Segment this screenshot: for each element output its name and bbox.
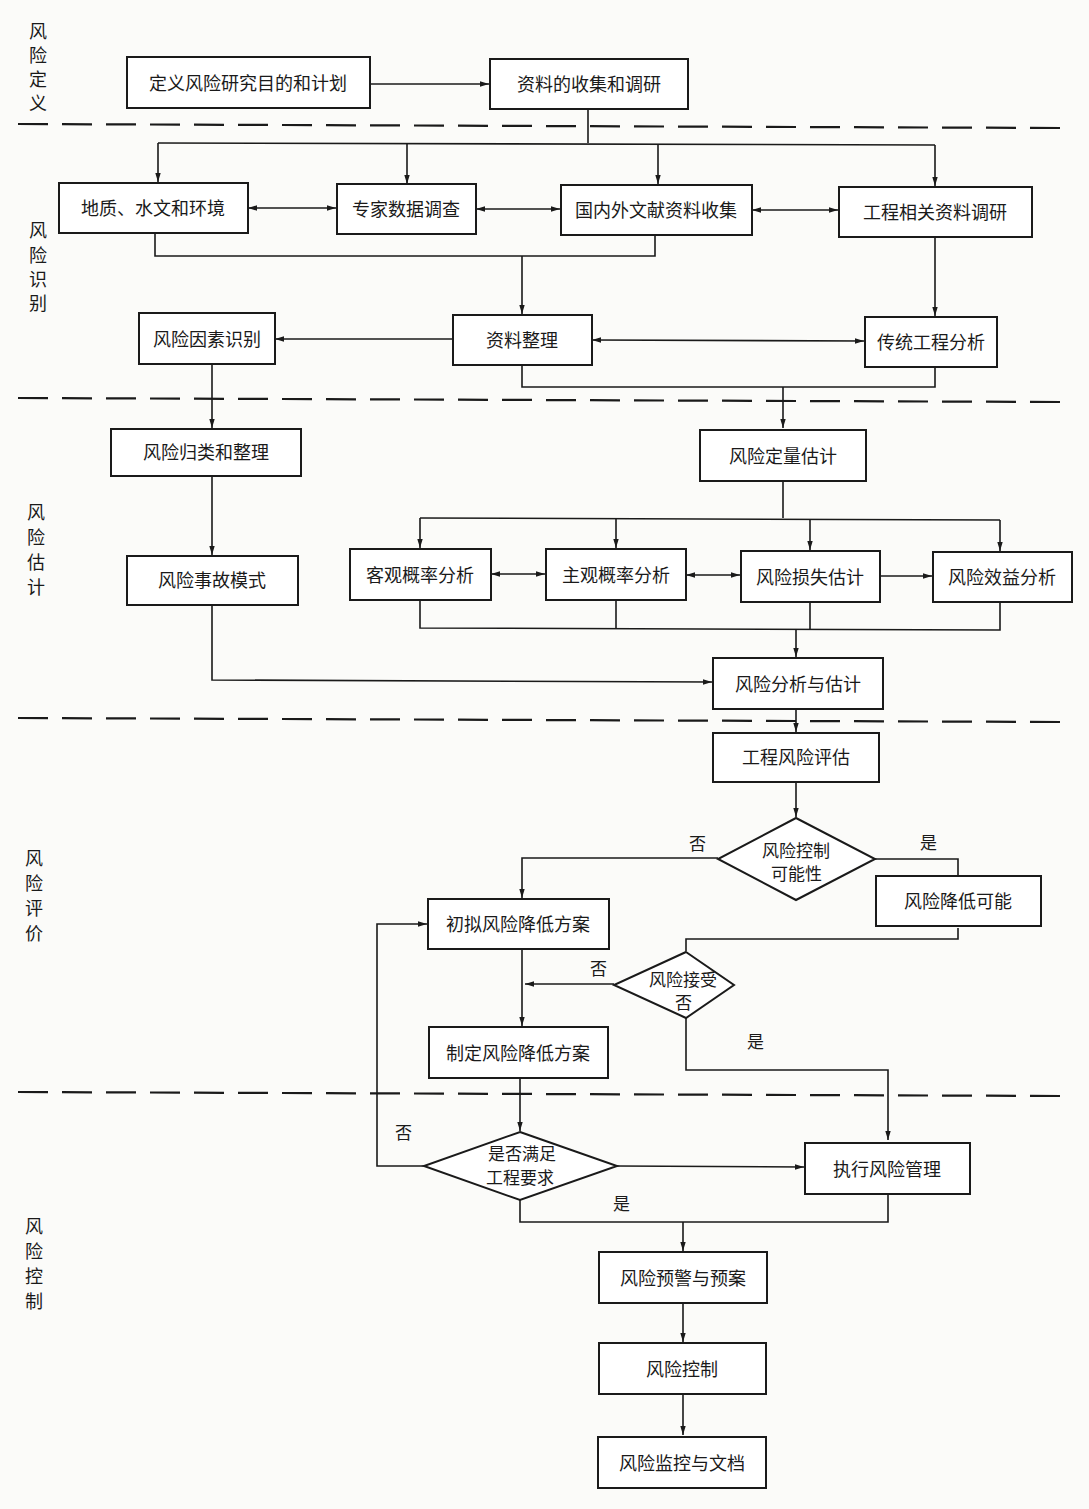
svg-text:制: 制 [25, 1291, 43, 1312]
svg-text:传统工程分析: 传统工程分析 [877, 332, 985, 353]
node-objective-prob: 客观概率分析 [350, 549, 491, 600]
node-classify: 风险归类和整理 [111, 429, 301, 476]
node-quant-estimate: 风险定量估计 [700, 430, 866, 481]
svg-text:风: 风 [25, 848, 43, 869]
node-literature: 国内外文献资料收集 [561, 185, 752, 235]
node-traditional-analysis: 传统工程分析 [865, 317, 997, 367]
svg-text:可能性: 可能性 [771, 864, 822, 884]
svg-text:估: 估 [27, 552, 45, 573]
node-warning: 风险预警与预案 [599, 1252, 767, 1303]
svg-text:风险预警与预案: 风险预警与预案 [620, 1268, 746, 1289]
node-analysis-estimate: 风险分析与估计 [713, 658, 883, 709]
node-control: 风险控制 [599, 1343, 766, 1394]
svg-text:工程相关资料调研: 工程相关资料调研 [863, 202, 1007, 223]
svg-text:风险因素识别: 风险因素识别 [153, 329, 261, 350]
svg-text:别: 别 [29, 293, 47, 314]
svg-text:风险降低可能: 风险降低可能 [904, 891, 1012, 912]
decision-control-possible: 风险控制 可能性 [718, 818, 875, 900]
svg-text:控: 控 [25, 1266, 43, 1287]
svg-text:风险定量估计: 风险定量估计 [729, 446, 837, 467]
svg-text:风险归类和整理: 风险归类和整理 [143, 442, 269, 463]
svg-text:风险事故模式: 风险事故模式 [158, 570, 266, 591]
node-monitor: 风险监控与文档 [598, 1437, 766, 1488]
svg-text:执行风险管理: 执行风险管理 [833, 1159, 941, 1180]
svg-text:险: 险 [29, 245, 47, 266]
edge-label-accept-no: 否 [590, 959, 607, 979]
node-draft-plan: 初拟风险降低方案 [428, 899, 609, 949]
node-project-eval: 工程风险评估 [713, 733, 879, 782]
svg-text:国内外文献资料收集: 国内外文献资料收集 [575, 200, 737, 221]
node-project-data: 工程相关资料调研 [839, 187, 1032, 237]
svg-text:初拟风险降低方案: 初拟风险降低方案 [446, 914, 590, 935]
node-geo-env: 地质、水文和环境 [59, 183, 248, 233]
svg-text:资料整理: 资料整理 [486, 330, 558, 351]
node-factor-identify: 风险因素识别 [139, 313, 275, 364]
stage-label-estimate: 风 险 估 计 [27, 502, 45, 598]
svg-text:险: 险 [25, 1241, 43, 1262]
node-subjective-prob: 主观概率分析 [546, 549, 686, 600]
svg-text:专家数据调查: 专家数据调查 [352, 199, 460, 220]
stage-label-evaluate: 风 险 评 价 [25, 848, 43, 944]
svg-text:否: 否 [675, 993, 692, 1013]
stage-label-identify: 风 险 识 别 [29, 220, 47, 314]
svg-text:义: 义 [29, 93, 47, 114]
svg-text:客观概率分析: 客观概率分析 [366, 565, 474, 586]
svg-text:险: 险 [29, 45, 47, 66]
svg-text:风险监控与文档: 风险监控与文档 [619, 1453, 745, 1474]
svg-text:险: 险 [25, 873, 43, 894]
svg-text:价: 价 [25, 923, 43, 944]
edge-label-accept-yes: 是 [747, 1032, 764, 1052]
node-benefit-analysis: 风险效益分析 [933, 552, 1072, 602]
svg-text:地质、水文和环境: 地质、水文和环境 [81, 198, 225, 219]
svg-text:资料的收集和调研: 资料的收集和调研 [517, 74, 661, 95]
svg-text:风险接受: 风险接受 [649, 970, 717, 990]
stage-dividers [18, 124, 1060, 1096]
svg-text:定义风险研究目的和计划: 定义风险研究目的和计划 [149, 73, 347, 94]
stage-label-control: 风 险 控 制 [25, 1216, 43, 1312]
svg-text:工程要求: 工程要求 [486, 1168, 554, 1188]
node-accident-mode: 风险事故模式 [127, 556, 298, 605]
svg-text:工程风险评估: 工程风险评估 [742, 747, 850, 768]
svg-text:风险损失估计: 风险损失估计 [756, 567, 864, 588]
svg-text:制定风险降低方案: 制定风险降低方案 [446, 1043, 590, 1064]
svg-text:计: 计 [27, 577, 45, 598]
decision-meet-requirement: 是否满足 工程要求 [424, 1132, 617, 1200]
node-data-organize: 资料整理 [453, 315, 592, 365]
node-exec-mgmt: 执行风险管理 [805, 1143, 970, 1194]
svg-text:风险分析与估计: 风险分析与估计 [735, 674, 861, 695]
node-data-collect: 资料的收集和调研 [490, 59, 688, 109]
decision-accept: 风险接受 否 [614, 952, 734, 1018]
svg-text:识: 识 [29, 269, 47, 290]
svg-text:风: 风 [27, 502, 45, 523]
edge-label-meet-no: 否 [395, 1123, 412, 1143]
svg-text:风险控制: 风险控制 [646, 1359, 718, 1380]
svg-text:风: 风 [25, 1216, 43, 1237]
svg-text:风: 风 [29, 21, 47, 42]
node-make-plan: 制定风险降低方案 [429, 1027, 608, 1078]
svg-text:风险效益分析: 风险效益分析 [948, 567, 1056, 588]
edge-label-meet-yes: 是 [613, 1194, 630, 1214]
svg-text:评: 评 [25, 898, 43, 919]
node-define-plan: 定义风险研究目的和计划 [127, 57, 370, 108]
svg-text:险: 险 [27, 527, 45, 548]
svg-text:定: 定 [29, 69, 47, 90]
edge-label-control-yes: 是 [920, 833, 937, 853]
svg-text:是否满足: 是否满足 [488, 1144, 556, 1164]
edge-label-control-no: 否 [689, 834, 706, 854]
risk-management-flowchart: 风 险 定 义 风 险 识 别 风 险 估 计 风 险 评 价 风 险 控 制 [0, 0, 1089, 1509]
stage-label-define: 风 险 定 义 [29, 21, 47, 114]
svg-text:风险控制: 风险控制 [762, 841, 830, 861]
svg-text:风: 风 [29, 220, 47, 241]
node-expert-survey: 专家数据调查 [337, 184, 476, 234]
svg-text:主观概率分析: 主观概率分析 [562, 565, 670, 586]
node-reduce-possible: 风险降低可能 [876, 876, 1041, 926]
node-loss-estimate: 风险损失估计 [741, 551, 880, 602]
